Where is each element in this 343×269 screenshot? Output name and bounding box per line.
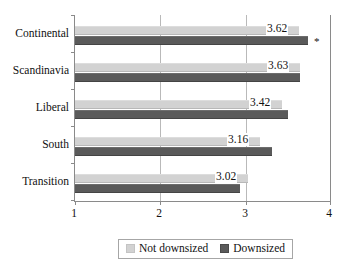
x-axis-tick-3 (246, 201, 247, 205)
bar-downsized-continental[interactable] (75, 36, 308, 45)
x-axis-tick-1 (75, 201, 76, 205)
legend-entry-not-downsized[interactable]: Not downsized (126, 242, 208, 255)
x-axis-tick-labels: 1 2 3 4 (0, 206, 343, 222)
x-tick-label-3: 3 (235, 206, 255, 220)
bar-group-scandinavia: 3.63 (75, 60, 330, 90)
legend-entry-downsized[interactable]: Downsized (220, 242, 285, 255)
horizontal-bar-chart: Continental Scandinavia Liberal South Tr… (0, 0, 343, 269)
legend-label-downsized: Downsized (233, 242, 285, 255)
x-axis-tick-4 (330, 201, 331, 205)
legend-swatch-icon-not-downsized (126, 244, 135, 253)
bar-downsized-south[interactable] (75, 147, 272, 156)
value-label-transition: 3.02 (215, 170, 237, 183)
bar-group-south: 3.16 (75, 134, 330, 164)
plot-area: 3.62 * 3.63 3.42 3.16 3.02 (74, 15, 330, 202)
category-label-scandinavia: Scandinavia (0, 64, 69, 77)
value-label-south: 3.16 (227, 133, 249, 146)
value-label-scandinavia: 3.63 (267, 59, 289, 72)
legend-label-not-downsized: Not downsized (139, 242, 208, 255)
category-label-south: South (0, 138, 69, 151)
x-tick-label-1: 1 (64, 206, 84, 220)
x-tick-label-4: 4 (319, 206, 339, 220)
bar-downsized-scandinavia[interactable] (75, 73, 300, 82)
chart-legend: Not downsized Downsized (118, 239, 293, 259)
bar-downsized-transition[interactable] (75, 184, 240, 193)
category-label-liberal: Liberal (0, 101, 69, 114)
category-label-transition: Transition (0, 175, 69, 188)
bar-not-downsized-scandinavia[interactable] (75, 63, 300, 72)
legend-swatch-icon-downsized (220, 244, 229, 253)
bar-group-liberal: 3.42 (75, 97, 330, 127)
category-label-continental: Continental (0, 27, 69, 40)
bar-downsized-liberal[interactable] (75, 110, 288, 119)
bar-group-transition: 3.02 (75, 171, 330, 201)
bar-group-continental: 3.62 * (75, 23, 330, 53)
y-axis-tick-0 (71, 15, 75, 16)
x-axis-tick-2 (160, 201, 161, 205)
value-label-continental: 3.62 (266, 22, 288, 35)
x-tick-label-2: 2 (149, 206, 169, 220)
value-label-liberal: 3.42 (249, 96, 271, 109)
significance-asterisk-continental: * (314, 36, 320, 47)
